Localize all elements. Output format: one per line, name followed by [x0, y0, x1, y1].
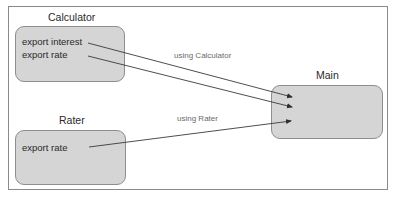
- main-title: Main: [316, 70, 339, 81]
- rater-module-box: [15, 130, 126, 185]
- calculator-title: Calculator: [48, 12, 95, 23]
- main-module-box: [271, 85, 383, 139]
- calculator-export-rate: export rate: [22, 50, 67, 60]
- calculator-export-interest: export interest: [22, 37, 82, 47]
- edge-label-using-calculator: using Calculator: [174, 52, 231, 60]
- rater-title: Rater: [59, 115, 85, 126]
- edge-label-using-rater: using Rater: [177, 115, 218, 123]
- rater-export-rate: export rate: [22, 143, 67, 153]
